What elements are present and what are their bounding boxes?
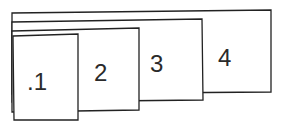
card-2-label: 2 — [94, 59, 107, 86]
stacked-cards-diagram: 4 3 2 .1 — [0, 0, 282, 126]
card-1: .1 — [13, 34, 78, 120]
card-1-label: .1 — [27, 68, 47, 95]
card-3-label: 3 — [150, 50, 163, 77]
card-4-label: 4 — [218, 44, 231, 71]
